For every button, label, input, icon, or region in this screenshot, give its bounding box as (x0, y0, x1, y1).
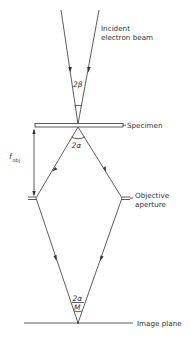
arrow-image-right-icon (100, 256, 103, 262)
arrow-image-left-icon (53, 255, 56, 261)
specimen-label: Specimen (127, 121, 162, 130)
ray-diagram: Incident electron beam 2β Specimen 2α f … (0, 0, 191, 340)
image-plane-label: Image plane (137, 319, 182, 328)
image-point (77, 322, 79, 324)
scattered-ray-right (78, 127, 122, 198)
incident-beam-label-1: Incident (101, 24, 130, 33)
angle-arc-alpha-icon (72, 137, 85, 139)
specimen-bar (35, 124, 123, 128)
angle-image-denominator: M (74, 303, 81, 312)
scattered-ray-left (36, 127, 78, 198)
image-ray-left (36, 198, 78, 323)
angle-beta-label: 2β (73, 80, 83, 89)
image-ray-right (78, 198, 122, 323)
angle-arc-beta-icon (75, 105, 82, 106)
arrow-focal-bottom-icon (32, 191, 35, 197)
focal-length-subscript: obj (13, 157, 21, 164)
arrow-focal-top-icon (32, 129, 35, 135)
incident-beam-label-2: electron beam (101, 33, 153, 42)
objective-aperture-label-1: Objective (135, 191, 170, 200)
angle-alpha-label: 2α (72, 141, 82, 150)
objective-aperture-label-2: aperture (135, 200, 167, 209)
